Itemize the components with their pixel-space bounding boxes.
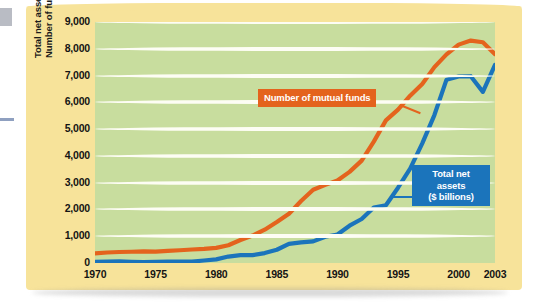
- x-axis-tick-label: 1970: [84, 268, 107, 280]
- y-axis-tick-label: 4,000: [44, 149, 90, 161]
- x-axis-tick-label: 1975: [144, 268, 167, 280]
- blue-callout-line1: Total net: [432, 168, 470, 179]
- y-axis-tick-label: 8,000: [44, 42, 90, 54]
- blue-series-callout: Total net assets ($ billions): [412, 165, 490, 206]
- gridline: [95, 47, 495, 51]
- x-axis-tick-label: 2003: [484, 268, 507, 280]
- orange-series-callout: Number of mutual funds: [258, 89, 376, 107]
- edge-fragment-top-left: [0, 8, 12, 26]
- plot-area: [95, 22, 495, 263]
- x-axis-tick-label: 2000: [447, 268, 470, 280]
- gridline: [95, 74, 495, 78]
- x-axis-ticks: 19701975198019851990199520002003: [0, 268, 540, 284]
- gridline: [95, 22, 495, 24]
- y-axis-tick-label: 9,000: [44, 15, 90, 27]
- x-axis-tick-label: 1990: [326, 268, 349, 280]
- x-axis-tick-label: 1985: [266, 268, 289, 280]
- y-axis-tick-label: 0: [44, 256, 90, 268]
- chart-figure: Total net assets ($ billions) Number of …: [0, 0, 540, 308]
- x-axis-tick-label: 1980: [205, 268, 228, 280]
- y-axis-tick-label: 7,000: [44, 69, 90, 81]
- y-axis-tick-label: 5,000: [44, 122, 90, 134]
- blue-callout-line3: ($ billions): [428, 191, 474, 202]
- series-line: [95, 41, 495, 254]
- blue-callout-line2: assets: [437, 180, 466, 191]
- series-lines: [95, 22, 495, 263]
- y-axis-tick-label: 6,000: [44, 95, 90, 107]
- y-axis-tick-label: 2,000: [44, 202, 90, 214]
- gridline: [95, 154, 495, 158]
- x-axis-tick-label: 1995: [387, 268, 410, 280]
- y-axis-tick-label: 1,000: [44, 229, 90, 241]
- y-axis-ticks: 01,0002,0003,0004,0005,0006,0007,0008,00…: [40, 0, 90, 284]
- y-axis-tick-label: 3,000: [44, 176, 90, 188]
- edge-fragment-left: [0, 118, 14, 121]
